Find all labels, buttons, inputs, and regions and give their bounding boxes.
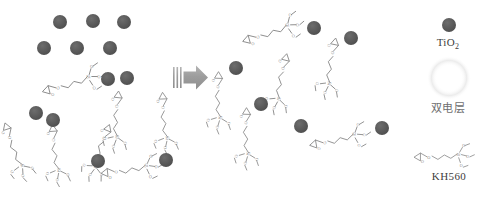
tio2-particle: [46, 113, 60, 127]
legend-label-kh560: KH560: [414, 170, 484, 182]
tio2-particle: [103, 41, 117, 55]
legend-halo-ring-icon: [427, 56, 471, 100]
tio2-particle: [53, 15, 67, 29]
tio2-particle: [294, 119, 308, 133]
legend-tio2-particle-icon: [442, 18, 456, 32]
tio2-particle: [101, 72, 115, 86]
arrow-tail-line: [177, 67, 179, 88]
tio2-particle: [29, 106, 43, 120]
tio2-particle: [344, 31, 358, 45]
tio2-particle: [37, 41, 51, 55]
legend-label-tio2-subscript: 2: [455, 42, 459, 51]
legend-label-tio2-text: TiO: [437, 36, 455, 48]
tio2-particle: [229, 61, 243, 75]
tio2-particle: [86, 14, 100, 28]
tio2-particle: [375, 121, 389, 135]
legend-label-tio2: TiO2: [418, 36, 478, 51]
tio2-particle: [307, 21, 321, 35]
tio2-particle: [120, 71, 134, 85]
tio2-particle: [159, 153, 173, 167]
tio2-particle: [254, 97, 268, 111]
tio2-particle: [117, 15, 131, 29]
tio2-particle: [70, 41, 84, 55]
legend-label-electric-double-layer: 双电层: [418, 99, 478, 115]
arrow-tail-line: [180, 67, 182, 88]
tio2-particle: [91, 154, 105, 168]
arrow-tail-line: [173, 67, 175, 88]
